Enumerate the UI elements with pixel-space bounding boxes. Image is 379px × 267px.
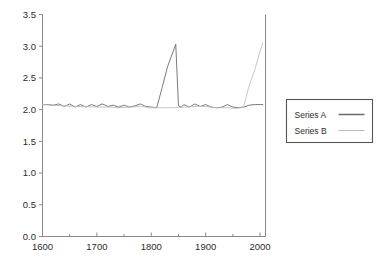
line-chart: 0.00.51.01.52.02.53.03.5 160017001800190… — [0, 0, 379, 267]
x-tick-label: 2000 — [249, 241, 270, 252]
chart-figure: 0.00.51.01.52.02.53.03.5 160017001800190… — [0, 0, 379, 267]
y-tick-label: 3.5 — [23, 9, 36, 20]
y-tick-label: 0.5 — [23, 199, 36, 210]
y-tick-label: 1.0 — [23, 167, 36, 178]
y-tick-label: 3.0 — [23, 41, 36, 52]
series-line-1 — [43, 44, 263, 107]
series-lines — [43, 43, 263, 108]
x-tick-label: 1900 — [195, 241, 216, 252]
plot-frame — [43, 15, 266, 237]
x-tick-label: 1700 — [86, 241, 107, 252]
series-line-2 — [43, 43, 263, 108]
legend-box — [287, 100, 373, 143]
chart-legend: Series ASeries B — [287, 100, 373, 143]
x-tick-label: 1800 — [141, 241, 162, 252]
y-tick-label: 2.0 — [23, 104, 36, 115]
y-tick-label: 2.5 — [23, 72, 36, 83]
x-axis: 16001700180019002000 — [32, 233, 271, 252]
legend-label-1: Series A — [295, 110, 327, 120]
y-axis: 0.00.51.01.52.02.53.03.5 — [23, 9, 43, 242]
x-tick-label: 1600 — [32, 241, 53, 252]
y-tick-label: 1.5 — [23, 136, 36, 147]
legend-label-2: Series B — [295, 126, 327, 136]
